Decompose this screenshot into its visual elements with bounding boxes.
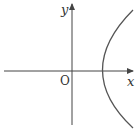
parabola-curve xyxy=(103,10,134,128)
origin-label: O xyxy=(60,74,70,88)
parabola-diagram: y O x xyxy=(0,0,135,131)
x-axis-label: x xyxy=(127,74,135,89)
y-axis-label: y xyxy=(60,2,69,17)
